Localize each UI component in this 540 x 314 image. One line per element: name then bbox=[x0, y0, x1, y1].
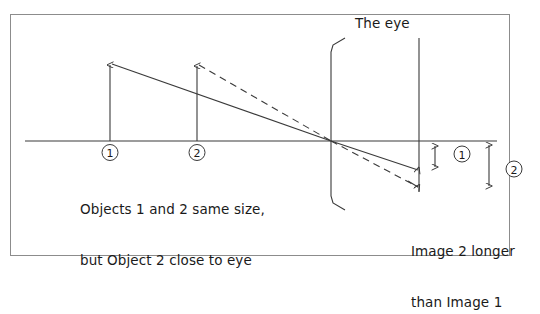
images-caption-line-2: than Image 1 bbox=[411, 294, 515, 311]
images-caption-line-1: Image 2 longer bbox=[411, 243, 515, 260]
objects-caption-line-1: Objects 1 and 2 same size, bbox=[80, 201, 265, 218]
svg-text:2: 2 bbox=[194, 147, 201, 160]
object-1-marker: 1 bbox=[102, 145, 118, 161]
images-caption: Image 2 longer than Image 1 bbox=[411, 209, 515, 314]
image-2-marker: 2 bbox=[506, 161, 522, 177]
eye-title-label: The eye bbox=[355, 15, 410, 32]
object-2-marker: 2 bbox=[189, 145, 205, 161]
svg-text:2: 2 bbox=[511, 164, 518, 177]
objects-caption: Objects 1 and 2 same size, but Object 2 … bbox=[80, 167, 265, 303]
image-1-marker: 1 bbox=[454, 146, 470, 162]
objects-caption-line-2: but Object 2 close to eye bbox=[80, 252, 265, 269]
svg-text:1: 1 bbox=[107, 147, 114, 160]
svg-text:1: 1 bbox=[459, 149, 466, 162]
